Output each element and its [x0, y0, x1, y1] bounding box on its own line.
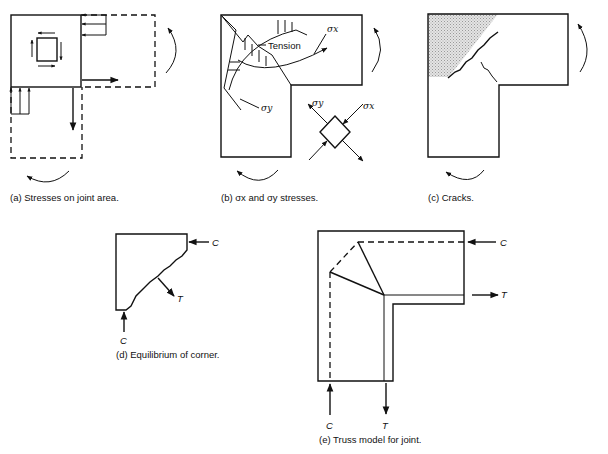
svg-text:σx: σx — [363, 101, 374, 111]
svg-text:T: T — [382, 420, 389, 431]
svg-text:C: C — [212, 237, 219, 248]
svg-text:C: C — [500, 237, 507, 248]
panel-e: C T C T (e) Truss model for joint. — [318, 231, 508, 445]
sigma-y-label: σy — [261, 103, 273, 113]
panel-c: (c) Cracks. — [428, 14, 587, 203]
panel-a: (a) Stresses on joint area. — [10, 15, 176, 203]
panel-d: C T C (d) Equilibrium of corner. — [116, 234, 219, 360]
caption-e: (e) Truss model for joint. — [319, 434, 421, 445]
caption-c: (c) Cracks. — [428, 192, 474, 203]
svg-text:C: C — [326, 420, 333, 431]
caption-a: (a) Stresses on joint area. — [10, 192, 119, 203]
sigma-x-label: σx — [327, 24, 338, 34]
caption-b: (b) σx and σy stresses. — [221, 192, 318, 203]
joint-square — [11, 15, 81, 87]
svg-text:σy: σy — [312, 98, 324, 108]
panel-b: Tension σx σy σy σx (b) σx and σy stress… — [221, 15, 381, 203]
svg-text:C: C — [120, 335, 127, 346]
joint-diagram: (a) Stresses on joint area. Tension σx σ… — [0, 0, 608, 454]
svg-text:T: T — [177, 293, 184, 304]
svg-text:T: T — [501, 289, 508, 300]
tension-label: Tension — [268, 40, 301, 51]
caption-d: (d) Equilibrium of corner. — [116, 349, 219, 360]
